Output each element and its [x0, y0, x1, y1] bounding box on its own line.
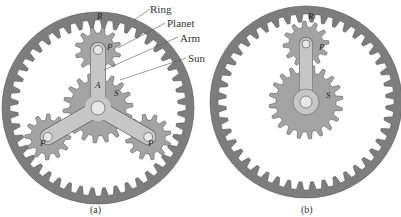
letter-planet-b: P	[318, 42, 325, 52]
caption-a: (a)	[90, 204, 101, 216]
sun-shaft	[300, 96, 312, 108]
label-arm: Arm	[180, 32, 201, 44]
letter-arm-a: A	[94, 80, 101, 90]
label-ring: Ring	[150, 3, 172, 15]
planet-pin	[302, 40, 310, 48]
letter-ring-a: R	[96, 11, 103, 21]
letter-sun-a: S	[114, 88, 119, 98]
letter-sun-b: S	[326, 90, 331, 100]
letter-planet-right-a: P	[147, 138, 154, 148]
letter-ring-b: R	[307, 11, 314, 21]
label-sun: Sun	[188, 52, 206, 64]
panel-a	[2, 12, 194, 204]
label-planet: Planet	[167, 17, 195, 29]
sun-shaft	[91, 101, 105, 115]
letter-planet-left-a: P	[39, 138, 46, 148]
panel-b	[210, 6, 401, 198]
planetary-gear-figure: Ring Planet Arm Sun R P A S P P R P S (a…	[0, 0, 401, 217]
planet-pin	[94, 46, 103, 55]
letter-planet-a: P	[106, 42, 113, 52]
caption-b: (b)	[301, 204, 313, 216]
